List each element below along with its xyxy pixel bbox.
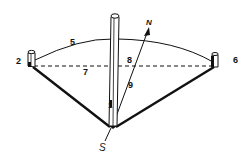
label-5: 5	[70, 37, 75, 47]
label-north: N	[146, 18, 152, 27]
sundial-diagram: 2 5 6 7 8 9 1 N S	[0, 0, 250, 160]
label-1: 1	[108, 101, 113, 110]
label-9: 9	[128, 80, 133, 90]
left-post	[28, 50, 35, 67]
arc-line	[35, 39, 213, 62]
label-6: 6	[233, 55, 238, 65]
label-south: S	[99, 142, 106, 153]
left-ground-line	[33, 67, 110, 127]
right-post	[211, 53, 218, 68]
central-post	[109, 14, 119, 129]
north-arrow-icon	[144, 27, 150, 36]
label-8: 8	[127, 55, 132, 65]
south-line	[105, 128, 111, 141]
label-7: 7	[83, 67, 88, 77]
label-2: 2	[16, 56, 21, 66]
